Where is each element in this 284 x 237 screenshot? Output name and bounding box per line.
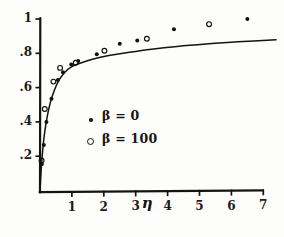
data-point-filled: [172, 27, 176, 31]
x-axis-title: η: [142, 196, 153, 211]
y-tick-label: .6: [19, 81, 32, 93]
data-point-filled: [61, 70, 65, 74]
x-tick-label: 7: [251, 199, 275, 211]
y-tick-label: .2: [19, 149, 32, 161]
data-point-open: [144, 36, 149, 41]
theory-curve: [40, 40, 276, 191]
x-tick-label: 2: [92, 201, 116, 213]
data-point-open: [102, 48, 107, 53]
data-point-filled: [118, 42, 122, 46]
y-tick-label: 1: [24, 12, 32, 24]
x-tick-label: 4: [156, 200, 180, 212]
legend-entry-beta-100: β = 100: [83, 130, 158, 149]
data-point-filled: [56, 78, 60, 82]
data-point-filled: [44, 120, 48, 124]
data-point-filled: [245, 17, 249, 21]
data-point-open: [207, 22, 212, 27]
open-circle-icon: [83, 130, 95, 149]
filled-circle-icon: [83, 107, 95, 126]
axis-lines: [40, 18, 263, 193]
figure-container: 1.8.6.4.2 1234567 η β = 0 β = 100: [0, 0, 284, 237]
x-axis-line: [40, 190, 263, 192]
data-point-filled: [135, 38, 139, 42]
data-point-open: [58, 65, 63, 70]
y-tick-label: .8: [19, 46, 32, 58]
data-point-filled: [69, 62, 73, 66]
x-tick-label: 5: [188, 200, 212, 212]
data-point-open: [51, 79, 56, 84]
data-point-filled: [49, 97, 53, 101]
legend-label-beta-100: β = 100: [102, 133, 158, 146]
y-tick-label: .4: [19, 115, 32, 127]
data-point-filled: [42, 143, 46, 147]
data-point-open: [42, 107, 47, 112]
legend-label-beta-0: β = 0: [102, 110, 140, 123]
x-tick-label: 6: [219, 200, 243, 212]
legend-entry-beta-0: β = 0: [83, 107, 140, 126]
data-point-filled: [95, 52, 99, 56]
x-tick-label: 1: [60, 201, 84, 213]
